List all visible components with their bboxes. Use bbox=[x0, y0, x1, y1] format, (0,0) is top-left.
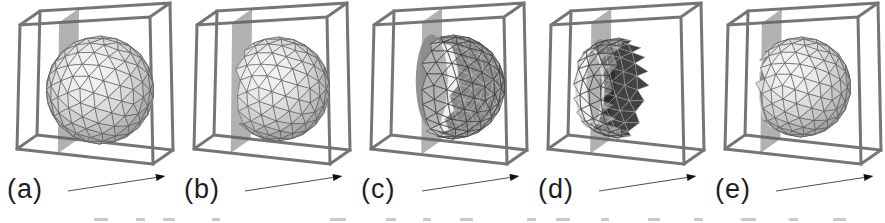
panel-label-e: (e) bbox=[715, 174, 751, 204]
cropped-caption-fragments bbox=[0, 215, 885, 223]
sphere-front-surface bbox=[756, 37, 851, 137]
panel-c: (c) bbox=[354, 0, 531, 223]
sweep-arrow-icon bbox=[245, 174, 342, 191]
sphere-front-surface bbox=[236, 37, 330, 141]
panel-label-c: (c) bbox=[361, 174, 395, 204]
panel-e: (e) bbox=[708, 0, 885, 223]
panel-label-b: (b) bbox=[184, 174, 220, 204]
panel-d: (d) bbox=[531, 0, 708, 223]
sweep-arrow-icon bbox=[776, 174, 873, 191]
sweep-arrow-icon bbox=[68, 174, 165, 191]
panel-a: (a) bbox=[0, 0, 177, 223]
sphere-front-surface bbox=[422, 35, 505, 139]
panel-label-a: (a) bbox=[7, 174, 43, 204]
panel-label-d: (d) bbox=[538, 174, 574, 204]
figure-row: (a) (b) (c) (d) (e) bbox=[0, 0, 885, 223]
panel-b: (b) bbox=[177, 0, 354, 223]
sweep-arrow-icon bbox=[599, 174, 696, 191]
sweep-arrow-icon bbox=[422, 174, 519, 191]
sphere-front-surface bbox=[47, 36, 154, 144]
